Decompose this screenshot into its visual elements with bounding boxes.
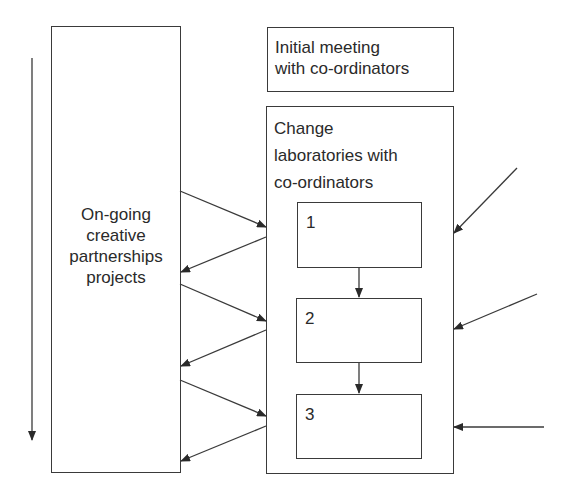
arrow-to-lab-2 (180, 284, 266, 321)
label-line: Change (274, 115, 449, 142)
label-line: On-going (51, 204, 181, 225)
initial-meeting-label: Initial meeting with co-ordinators (275, 37, 450, 79)
ongoing-projects-label: On-going creative partnerships projects (51, 204, 181, 288)
arrow-to-projects-1 (181, 237, 266, 272)
step-1-label: 1 (306, 212, 315, 233)
label-line: projects (51, 267, 181, 288)
step-2-label: 2 (305, 308, 314, 329)
step-3-label: 3 (305, 404, 314, 425)
label-line: Initial meeting (275, 37, 450, 58)
step-1-box (297, 202, 422, 268)
arrow-to-projects-2 (181, 330, 266, 366)
change-laboratories-label: Change laboratories with co-ordinators (274, 115, 449, 196)
label-line: laboratories with (274, 142, 449, 169)
label-line: co-ordinators (274, 169, 449, 196)
step-2-box (296, 298, 422, 363)
label-line: partnerships (51, 246, 181, 267)
external-input-arrow-2 (454, 294, 537, 329)
external-input-arrow-1 (454, 168, 517, 233)
arrow-to-lab-3 (180, 380, 266, 416)
arrow-to-lab-1 (180, 191, 266, 227)
step-3-box (296, 394, 422, 459)
label-line: creative (51, 225, 181, 246)
label-line: with co-ordinators (275, 58, 450, 79)
arrow-to-projects-3 (181, 426, 266, 461)
